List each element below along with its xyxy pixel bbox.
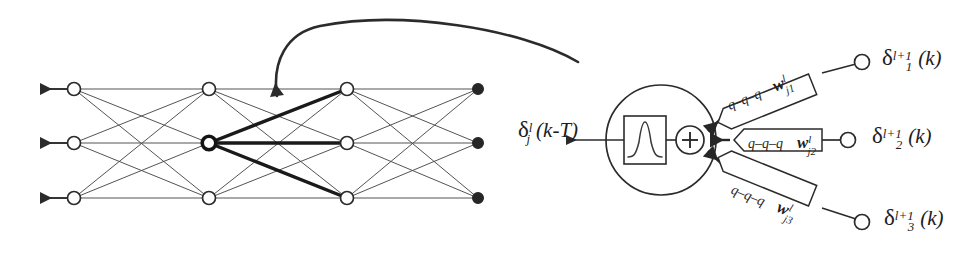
delta-argument: (k) xyxy=(920,206,943,230)
delta-node-1 xyxy=(855,55,870,70)
weight-label-2: q–q–q wlj2 xyxy=(748,133,820,155)
callout-arrow-path xyxy=(276,20,578,96)
weight-2-superscript: l xyxy=(808,133,811,145)
network-node-filled xyxy=(473,138,484,149)
weight-1-to-node-line xyxy=(822,64,856,73)
network-node-filled xyxy=(473,84,484,95)
delta-subscript: j xyxy=(526,131,530,146)
delta-subscript: 1 xyxy=(906,59,913,74)
delta-symbol: δ xyxy=(884,205,895,230)
delta-symbol: δ xyxy=(872,123,883,148)
network-node xyxy=(68,83,81,96)
weight-2-qchain: q–q–q xyxy=(748,136,783,151)
delta-label-1: δl+11(k) xyxy=(882,46,942,71)
network-node-filled xyxy=(473,193,484,204)
zoom-callout-arrow xyxy=(276,20,578,96)
delta-subscript: 3 xyxy=(908,219,915,234)
delta-label-3: δl+13(k) xyxy=(884,206,944,231)
weight-3-to-node-line xyxy=(822,208,856,219)
weight-1-subscript: j1 xyxy=(783,81,795,95)
weight-3-subscript: j3 xyxy=(782,212,794,226)
delta-argument: (k) xyxy=(908,124,931,148)
network-node xyxy=(68,192,81,205)
delta-label-2: δl+12(k) xyxy=(872,124,932,149)
figure-vector-layer xyxy=(0,0,980,262)
layer-3-nodes xyxy=(473,84,484,204)
network-node xyxy=(341,192,354,205)
layer-1-nodes xyxy=(202,83,216,205)
network-node xyxy=(341,137,354,150)
layer-0-nodes xyxy=(68,83,81,205)
network-node xyxy=(203,192,216,205)
figure-canvas: δlj(k-T) q–q–q wlj1 q–q–q wlj2 q–q–q wlj… xyxy=(0,0,980,262)
neuron-diagram xyxy=(566,55,870,230)
delta-node-3 xyxy=(855,215,870,230)
delta-symbol: δ xyxy=(882,45,893,70)
layer-2-nodes xyxy=(341,83,354,205)
delta-argument: (k) xyxy=(918,46,941,70)
network-graph xyxy=(40,83,483,205)
delta-argument: (k-T) xyxy=(536,118,578,142)
network-output-arrows xyxy=(40,89,68,198)
weight-2-subscript: j2 xyxy=(807,145,816,157)
network-node xyxy=(203,83,216,96)
delta-node-2 xyxy=(841,133,856,148)
neuron-output-label: δlj(k-T) xyxy=(518,118,578,143)
network-node xyxy=(341,83,354,96)
network-node xyxy=(68,137,81,150)
network-node-highlighted xyxy=(202,136,216,150)
delta-subscript: 2 xyxy=(896,137,903,152)
